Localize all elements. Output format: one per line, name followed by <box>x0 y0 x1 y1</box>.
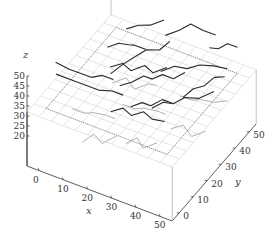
grid-line <box>27 112 172 167</box>
fibre-line <box>82 134 116 143</box>
y-axis-label: y <box>234 176 241 187</box>
grid-plane <box>27 15 256 167</box>
x-tick-label: 10 <box>57 184 69 194</box>
y-tick-label: 30 <box>225 162 237 172</box>
z-tick-label: 35 <box>14 101 26 111</box>
x-tick-label: 20 <box>82 193 94 203</box>
fibre-line <box>131 100 173 107</box>
x-tick-label: 40 <box>130 211 142 221</box>
dotted-rectangle-edge <box>167 73 237 154</box>
x-axis-line <box>27 166 172 221</box>
z-tick-label: 50 <box>14 71 26 81</box>
x-tick-label: 30 <box>106 202 118 212</box>
x-axis-label: x <box>86 205 92 216</box>
chart-3d: 010203040500102030405020253035404550 x y… <box>0 0 268 234</box>
y-tick-label: 40 <box>239 146 251 156</box>
z-tick-label: 20 <box>14 131 26 141</box>
fibre-line <box>183 77 225 98</box>
grid-line <box>83 47 228 102</box>
grid-line <box>69 63 214 118</box>
grid-line <box>111 15 256 70</box>
z-axis-label: z <box>22 49 29 60</box>
z-tick-label: 45 <box>14 81 26 91</box>
grid-line <box>41 96 186 151</box>
grid-line <box>62 72 207 127</box>
grid-line <box>48 88 193 143</box>
fibre-line <box>209 44 237 49</box>
fibre-line <box>111 108 165 121</box>
axes: 010203040500102030405020253035404550 <box>14 71 265 230</box>
y-tick-label: 20 <box>211 179 223 189</box>
fibre-line <box>107 43 145 49</box>
y-tick-label: 0 <box>183 211 189 221</box>
grid-line <box>76 55 221 110</box>
z-tick-label: 25 <box>14 121 26 131</box>
x-tick-label: 0 <box>33 175 39 185</box>
y-axis-line <box>172 124 256 221</box>
fibre-line <box>120 73 185 86</box>
fibre-line <box>165 24 215 35</box>
z-tick-label: 40 <box>14 91 26 101</box>
grid-line <box>27 15 111 112</box>
z-tick-label: 30 <box>14 111 26 121</box>
grid-line <box>55 80 200 135</box>
y-tick-label: 50 <box>253 130 265 140</box>
dotted-rectangle-edge <box>46 27 116 108</box>
y-tick-label: 10 <box>197 195 209 205</box>
fibre-line <box>126 138 157 148</box>
x-tick-label: 50 <box>154 220 166 230</box>
